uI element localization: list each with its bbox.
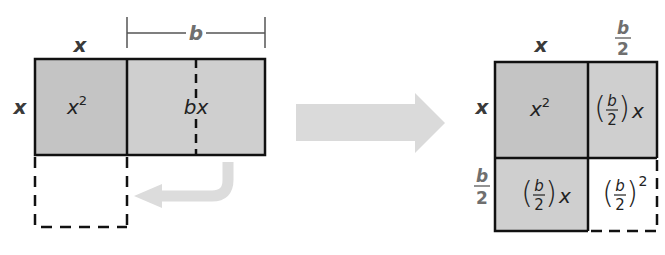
svg-text:2: 2 (615, 196, 625, 214)
diagram-canvas: b x x x2 bx (0, 0, 665, 255)
svg-text:2: 2 (607, 111, 617, 129)
side-x-label: x (13, 95, 28, 119)
top-b-half-label: b 2 (615, 18, 631, 59)
svg-text:b: b (607, 92, 617, 110)
left-figure: b x x x2 bx (13, 17, 265, 227)
svg-text:b: b (615, 177, 625, 195)
svg-text:2: 2 (534, 196, 544, 214)
svg-text:(: ( (594, 90, 606, 125)
svg-text:b: b (617, 18, 629, 38)
top-x-label: x (73, 33, 88, 57)
side-b-half-label: b 2 (474, 166, 490, 208)
svg-text:): ) (545, 175, 557, 210)
svg-text:x: x (558, 184, 571, 208)
top-x-label: x (534, 33, 549, 57)
svg-text:(: ( (521, 175, 533, 210)
right-arrow-icon (296, 93, 445, 153)
bx-label: bx (184, 95, 209, 119)
svg-text:): ) (626, 175, 638, 210)
svg-text:b: b (476, 166, 488, 186)
svg-text:): ) (618, 90, 630, 125)
side-x-label: x (475, 95, 490, 119)
right-figure: x b 2 x b 2 x2 (474, 18, 657, 231)
svg-text:x: x (631, 99, 644, 123)
completing-the-square-diagram: b x x x2 bx (0, 0, 665, 255)
svg-text:2: 2 (476, 188, 488, 208)
b-dimension-label: b (189, 21, 203, 45)
curved-left-arrow-icon (134, 162, 228, 208)
missing-square-dashed-outline (35, 157, 127, 227)
svg-text:2: 2 (639, 173, 648, 189)
svg-text:b: b (534, 177, 544, 195)
svg-text:2: 2 (617, 39, 629, 59)
svg-text:(: ( (602, 175, 614, 210)
